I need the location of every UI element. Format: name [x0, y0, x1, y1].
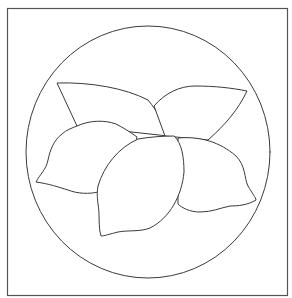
leaf-right-icon: [154, 86, 247, 140]
lemon-line-art: [0, 0, 292, 298]
coloring-page: [0, 0, 292, 298]
lemon-right-icon: [178, 138, 256, 212]
